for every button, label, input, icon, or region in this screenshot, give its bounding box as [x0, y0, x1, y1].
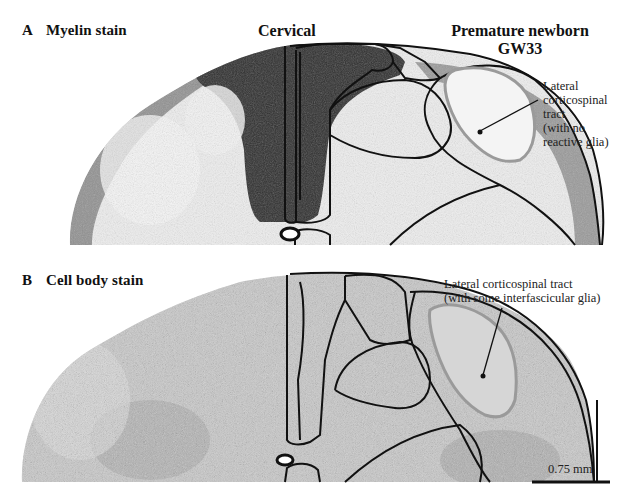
central-canal-b: [277, 455, 293, 465]
annotation-a-line-1: Lateral: [543, 79, 633, 93]
annotation-a-line-4: (with no: [543, 121, 633, 135]
annotation-b-line-2: (with some interfascicular glia): [444, 291, 633, 305]
panel-b-letter: B: [22, 272, 46, 289]
spinal-cord-sections: [0, 0, 633, 504]
annotation-a-line-5: reactive glia): [543, 135, 633, 149]
annotation-a-line-3: tract: [543, 107, 633, 121]
annotation-b-line-1: Lateral corticospinal tract: [444, 277, 633, 291]
scale-bar-label: 0.75 mm: [548, 462, 592, 477]
panel-b-annotation: Lateral corticospinal tract (with some i…: [444, 277, 633, 305]
panel-a-annotation: Lateral corticospinal tract (with no rea…: [543, 79, 633, 149]
central-canal-a: [281, 228, 299, 240]
myelin-section: [60, 40, 610, 250]
panel-b-title: Cell body stain: [46, 272, 143, 288]
annotation-a-line-2: corticospinal: [543, 93, 633, 107]
panel-b-label: BCell body stain: [22, 272, 143, 289]
